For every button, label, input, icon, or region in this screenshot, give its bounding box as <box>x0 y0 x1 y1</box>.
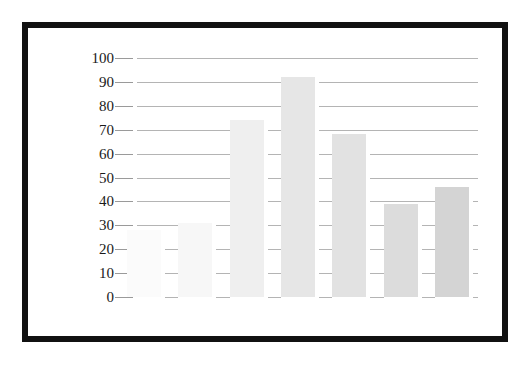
bar <box>230 120 264 297</box>
bar <box>384 204 418 297</box>
bars-container <box>0 0 530 297</box>
screenshot-root: 0102030405060708090100 <box>0 0 530 365</box>
bar <box>178 223 212 297</box>
bar <box>332 134 366 297</box>
bar <box>281 77 315 297</box>
chart-plot-area: 0102030405060708090100 <box>0 0 530 365</box>
bars-layer <box>0 0 530 365</box>
bar <box>127 230 161 297</box>
bar <box>435 187 469 297</box>
